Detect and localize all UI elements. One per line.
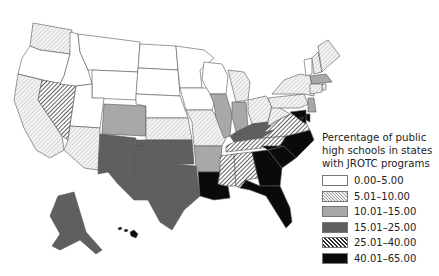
legend-swatch bbox=[322, 206, 348, 217]
state-ak bbox=[50, 192, 102, 254]
state-nd bbox=[138, 44, 178, 70]
state-dc bbox=[301, 117, 303, 119]
legend: Percentage of public high schools in sta… bbox=[322, 131, 439, 266]
legend-label: 10.01–15.00 bbox=[354, 206, 416, 217]
state-ks bbox=[146, 118, 192, 140]
legend-swatch bbox=[322, 175, 348, 186]
state-ny bbox=[272, 74, 314, 96]
legend-item: 0.00–5.00 bbox=[322, 173, 439, 189]
state-nm bbox=[98, 134, 136, 174]
state-sd bbox=[136, 68, 180, 96]
state-fl bbox=[240, 180, 292, 228]
legend-label: 25.01–40.00 bbox=[354, 237, 416, 248]
state-ri bbox=[322, 84, 326, 90]
state-ms bbox=[218, 154, 236, 186]
state-mi bbox=[228, 70, 250, 102]
state-vt bbox=[304, 58, 312, 76]
legend-item: 40.01–65.00 bbox=[322, 251, 439, 267]
legend-label: 0.00–5.00 bbox=[354, 175, 404, 186]
state-ar bbox=[194, 146, 222, 172]
legend-item: 5.01–10.00 bbox=[322, 189, 439, 205]
state-mt bbox=[78, 34, 140, 72]
state-nj bbox=[308, 98, 316, 112]
legend-item: 15.01–25.00 bbox=[322, 220, 439, 236]
legend-item: 25.01–40.00 bbox=[322, 235, 439, 251]
legend-swatch bbox=[322, 191, 348, 202]
state-wy bbox=[92, 70, 138, 100]
state-ma bbox=[310, 74, 332, 84]
state-de bbox=[306, 114, 310, 122]
legend-swatch bbox=[322, 253, 348, 264]
state-co bbox=[102, 104, 146, 136]
state-ct bbox=[310, 84, 322, 94]
state-hi bbox=[118, 227, 138, 238]
legend-label: 15.01–25.00 bbox=[354, 222, 416, 233]
legend-label: 5.01–10.00 bbox=[354, 191, 410, 202]
state-pa bbox=[268, 94, 308, 108]
legend-label: 40.01–65.00 bbox=[354, 253, 416, 264]
state-me bbox=[318, 40, 340, 72]
legend-swatch bbox=[322, 237, 348, 248]
legend-item: 10.01–15.00 bbox=[322, 204, 439, 220]
legend-swatch bbox=[322, 222, 348, 233]
legend-title: Percentage of public high schools in sta… bbox=[322, 131, 439, 170]
state-az bbox=[64, 126, 100, 170]
